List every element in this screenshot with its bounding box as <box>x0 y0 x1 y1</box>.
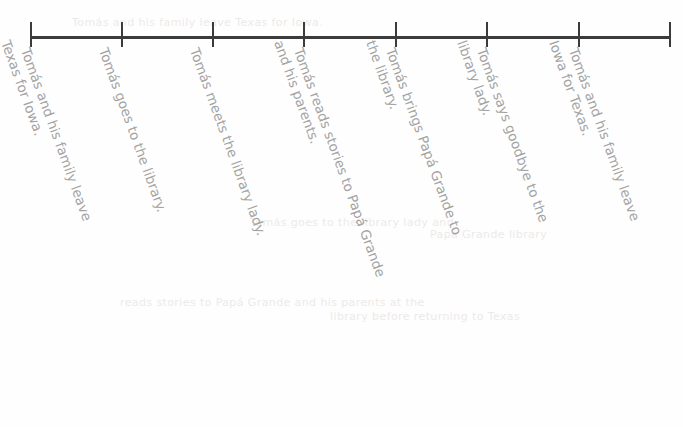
timeline-page: Tomás and his family leave Texas for Iow… <box>0 0 683 427</box>
event-label-line: Tomás reads stories to Papá Grande <box>290 46 388 279</box>
timeline-event-1: Tomás and his family leave Texas for Iow… <box>3 46 95 228</box>
timeline-event-2: Tomás goes to the library. <box>95 46 169 214</box>
timeline-event-5: Tomás brings Papá Grande to the library. <box>368 46 465 242</box>
event-label-line: and his parents. <box>271 38 373 285</box>
timeline-event-7: Tomás and his family leave Iowa for Texa… <box>551 46 643 228</box>
timeline-event-4: Tomás reads stories to Papá Grande and h… <box>276 46 388 285</box>
event-label-line: Tomás meets the library lady. <box>186 46 268 238</box>
event-label-line: Tomás goes to the library. <box>95 46 169 214</box>
timeline-event-6: Tomás says goodbye to the library lady. <box>459 46 551 230</box>
timeline-event-3: Tomás meets the library lady. <box>186 46 268 238</box>
timeline-labels: Tomás and his family leave Texas for Iow… <box>0 0 683 427</box>
